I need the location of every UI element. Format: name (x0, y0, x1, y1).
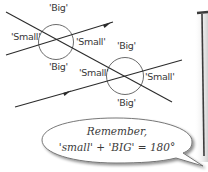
arrow-icon (63, 91, 71, 96)
label-small-right-1: 'Small' (76, 36, 106, 47)
label-big-bottom-2: 'Big' (117, 97, 136, 108)
label-small-left-2: 'Small' (79, 67, 109, 78)
transversal-line (6, 12, 172, 102)
callout-line-2: 'small' + 'BIG' = 180° (59, 141, 175, 153)
background-frame (194, 12, 208, 162)
callout-line-1: Remember, (86, 125, 147, 137)
parallel-lines-diagram: 'Big' 'Small' 'Small' 'Big' 'Big' 'Small… (0, 0, 208, 172)
label-small-left-1: 'Small' (11, 31, 41, 42)
angle-circle-1 (39, 25, 74, 60)
label-big-top-2: 'Big' (117, 40, 136, 51)
label-big-top-1: 'Big' (49, 2, 68, 13)
label-small-right-2: 'Small' (145, 71, 175, 82)
label-big-bottom-1: 'Big' (49, 61, 68, 72)
